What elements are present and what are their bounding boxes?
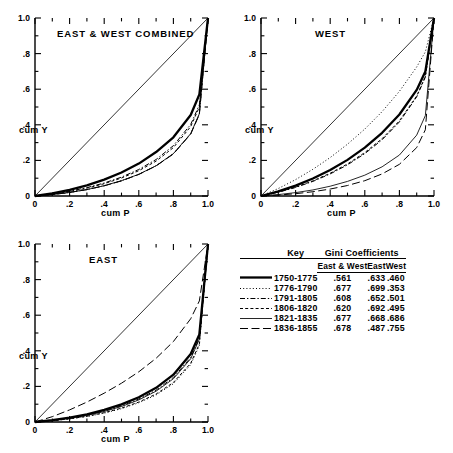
legend-body: 1750-1775.561.633.4601776-1790.677.699.3… <box>240 273 406 334</box>
legend-row: 1806-1820.620.692.495 <box>240 303 406 313</box>
gini-table: Key Gini Coefficients East & West East W… <box>240 248 406 333</box>
panel-combined <box>35 18 208 196</box>
gini-value-east: .487 <box>367 323 385 333</box>
y-tick-label: .6 <box>23 84 30 94</box>
y-tick-label: 1.0 <box>244 13 256 23</box>
x-tick-label: .4 <box>101 425 108 435</box>
legend-period-label: 1750-1775 <box>274 273 317 284</box>
y-tick-label: .6 <box>23 310 30 320</box>
legend-header-key: Key <box>274 248 317 258</box>
x-tick-label: .8 <box>170 199 177 209</box>
legend-line-swatch-thin-solid <box>240 314 272 323</box>
equality-diagonal <box>35 244 208 422</box>
x-axis-label-west: cum P <box>327 208 356 218</box>
y-tick-label: 1.0 <box>18 239 30 249</box>
y-tick-label: .2 <box>249 155 256 165</box>
gini-value-east: .692 <box>367 303 385 313</box>
panel-title-east: EAST <box>89 254 118 265</box>
y-tick-label: .8 <box>249 49 256 59</box>
plot-area-west <box>261 18 434 196</box>
y-tick-label: 0 <box>25 191 30 201</box>
gini-value-east: .652 <box>367 293 385 303</box>
panel-west <box>261 18 434 196</box>
gini-value-east-west: .677 <box>317 313 367 323</box>
gini-value-west: .460 <box>386 273 406 284</box>
x-tick-label: .6 <box>361 199 368 209</box>
y-tick-label: .4 <box>23 120 30 130</box>
gini-value-east-west: .677 <box>317 283 367 293</box>
gini-value-west: .686 <box>386 313 406 323</box>
x-tick-label: 0 <box>33 199 38 209</box>
equality-diagonal <box>35 18 208 196</box>
legend-period-label: 1806-1820 <box>274 303 317 313</box>
x-tick-label: .8 <box>396 199 403 209</box>
legend-col-west: West <box>386 259 406 273</box>
y-tick-label: .8 <box>23 49 30 59</box>
x-tick-label: 1.0 <box>202 425 214 435</box>
legend-swatch-cell <box>240 313 274 323</box>
legend-row: 1791-1805.608.652.501 <box>240 293 406 303</box>
legend-col-east: East <box>367 259 385 273</box>
x-tick-label: 0 <box>259 199 264 209</box>
legend-line-swatch-dotted <box>240 284 272 293</box>
legend-table: Key Gini Coefficients East & West East W… <box>240 248 448 333</box>
y-tick-label: 0 <box>25 417 30 427</box>
x-tick-label: 0 <box>33 425 38 435</box>
legend-subheader-row: East & West East West <box>240 259 406 273</box>
x-tick-label: .2 <box>292 199 299 209</box>
y-tick-label: .2 <box>23 155 30 165</box>
x-tick-label: .6 <box>135 199 142 209</box>
lorenz-curve-figure: EAST & WEST COMBINED cum Y cum P WEST cu… <box>0 0 453 453</box>
x-tick-label: .4 <box>327 199 334 209</box>
legend-period-label: 1836-1855 <box>274 323 317 333</box>
legend-line-swatch-long-dash <box>240 324 272 333</box>
legend-line-swatch-dash-dot <box>240 294 272 303</box>
plot-area-east <box>35 244 208 422</box>
gini-value-west: .495 <box>386 303 406 313</box>
panel-title-combined: EAST & WEST COMBINED <box>57 28 194 39</box>
gini-value-east-west: .561 <box>317 273 367 284</box>
legend-swatch-cell <box>240 323 274 333</box>
y-tick-label: .6 <box>249 84 256 94</box>
x-tick-label: 1.0 <box>428 199 440 209</box>
y-tick-label: .4 <box>249 120 256 130</box>
y-tick-label: 1.0 <box>18 13 30 23</box>
gini-value-east: .699 <box>367 283 385 293</box>
x-axis-label-combined: cum P <box>101 208 130 218</box>
x-tick-label: .6 <box>135 425 142 435</box>
legend-period-label: 1821-1835 <box>274 313 317 323</box>
x-tick-label: .2 <box>66 425 73 435</box>
equality-diagonal <box>261 18 434 196</box>
legend-swatch-cell <box>240 303 274 313</box>
legend-row: 1776-1790.677.699.353 <box>240 283 406 293</box>
gini-value-east: .633 <box>367 273 385 284</box>
panel-title-west: WEST <box>315 28 346 39</box>
legend-line-swatch-thick-solid <box>240 273 272 282</box>
y-tick-label: .2 <box>23 381 30 391</box>
x-tick-label: .2 <box>66 199 73 209</box>
gini-value-west: .501 <box>386 293 406 303</box>
gini-value-east-west: .678 <box>317 323 367 333</box>
gini-value-east-west: .608 <box>317 293 367 303</box>
legend-swatch-cell <box>240 293 274 303</box>
legend-row: 1750-1775.561.633.460 <box>240 273 406 284</box>
gini-value-east: .668 <box>367 313 385 323</box>
legend-row: 1821-1835.677.668.686 <box>240 313 406 323</box>
legend-col-east-west: East & West <box>317 259 367 273</box>
y-tick-label: 0 <box>251 191 256 201</box>
y-tick-label: .4 <box>23 346 30 356</box>
legend-swatch-cell <box>240 283 274 293</box>
legend-period-label: 1776-1790 <box>274 283 317 293</box>
panel-east <box>35 244 208 422</box>
legend-swatch-cell <box>240 273 274 284</box>
gini-value-west: .755 <box>386 323 406 333</box>
x-tick-label: .4 <box>101 199 108 209</box>
gini-value-east-west: .620 <box>317 303 367 313</box>
legend-header-row: Key Gini Coefficients <box>240 248 406 258</box>
legend-header-gini: Gini Coefficients <box>317 248 406 258</box>
legend-period-label: 1791-1805 <box>274 293 317 303</box>
x-tick-label: .8 <box>170 425 177 435</box>
x-tick-label: 1.0 <box>202 199 214 209</box>
legend-row: 1836-1855.678.487.755 <box>240 323 406 333</box>
y-tick-label: .8 <box>23 275 30 285</box>
